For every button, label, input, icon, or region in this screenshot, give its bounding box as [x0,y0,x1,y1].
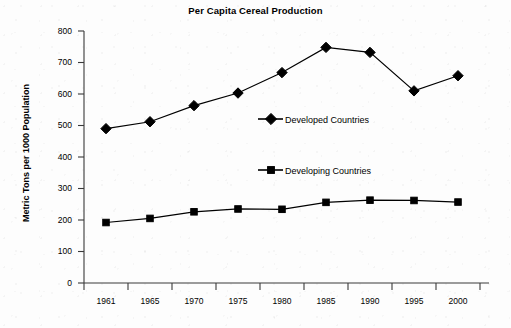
diamond-marker [101,123,111,133]
diamond-marker [321,42,331,52]
series-line [106,47,458,128]
data-series-layer [101,42,463,226]
square-marker [268,167,275,174]
square-marker [103,219,110,226]
x-axis-ticks [84,283,480,290]
diamond-marker [277,67,287,77]
square-marker [323,199,330,206]
square-marker [235,206,242,213]
square-marker [147,215,154,222]
diamond-marker [145,117,155,127]
square-marker [411,197,418,204]
legend-item-1 [258,113,283,124]
legend-item-developed-label: Developed Countries [285,115,369,125]
square-marker [191,209,198,216]
legend-markers [258,113,283,173]
y-axis-ticks [78,31,84,283]
diamond-marker [265,113,276,124]
plot-area [0,0,511,328]
series-2 [103,197,462,226]
diamond-marker [233,88,243,98]
square-marker [455,199,462,206]
square-marker [367,197,374,204]
legend-item-2 [258,167,283,174]
legend-item-developing-label: Developing Countries [285,166,371,176]
diamond-marker [189,100,199,110]
diamond-marker [453,71,463,81]
chart-figure: Per Capita Cereal Production Metric Tons… [0,0,511,328]
square-marker [279,206,286,213]
series-1 [101,42,463,134]
